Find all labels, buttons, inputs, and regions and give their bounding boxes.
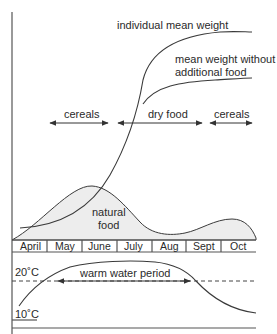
weight-without-food-label-1: mean weight without xyxy=(175,53,275,65)
month-aug: Aug xyxy=(160,240,179,252)
month-sept: Sept xyxy=(193,240,215,252)
natural-food-label-2: food xyxy=(98,219,119,231)
weight-without-food-label-2: additional food xyxy=(175,66,247,78)
cereals-label-2: cereals xyxy=(214,108,250,120)
month-may: May xyxy=(55,240,76,252)
individual-mean-weight-label: individual mean weight xyxy=(117,19,228,31)
temp-20c-label: 20˚C xyxy=(15,266,39,278)
cereals-label-1: cereals xyxy=(64,108,100,120)
warm-water-period-label: warm water period xyxy=(79,267,170,279)
dry-food-label: dry food xyxy=(148,108,188,120)
mean-weight-without-food-curve xyxy=(143,78,252,104)
month-oct: Oct xyxy=(230,240,246,252)
natural-food-area xyxy=(12,186,256,240)
month-july: July xyxy=(124,240,143,252)
month-june: June xyxy=(88,240,111,252)
temp-10c-label: 10˚C xyxy=(15,308,39,320)
month-april: April xyxy=(20,240,41,252)
fish-growth-diagram: individual mean weight mean weight witho… xyxy=(0,0,277,334)
natural-food-label-1: natural xyxy=(92,206,126,218)
